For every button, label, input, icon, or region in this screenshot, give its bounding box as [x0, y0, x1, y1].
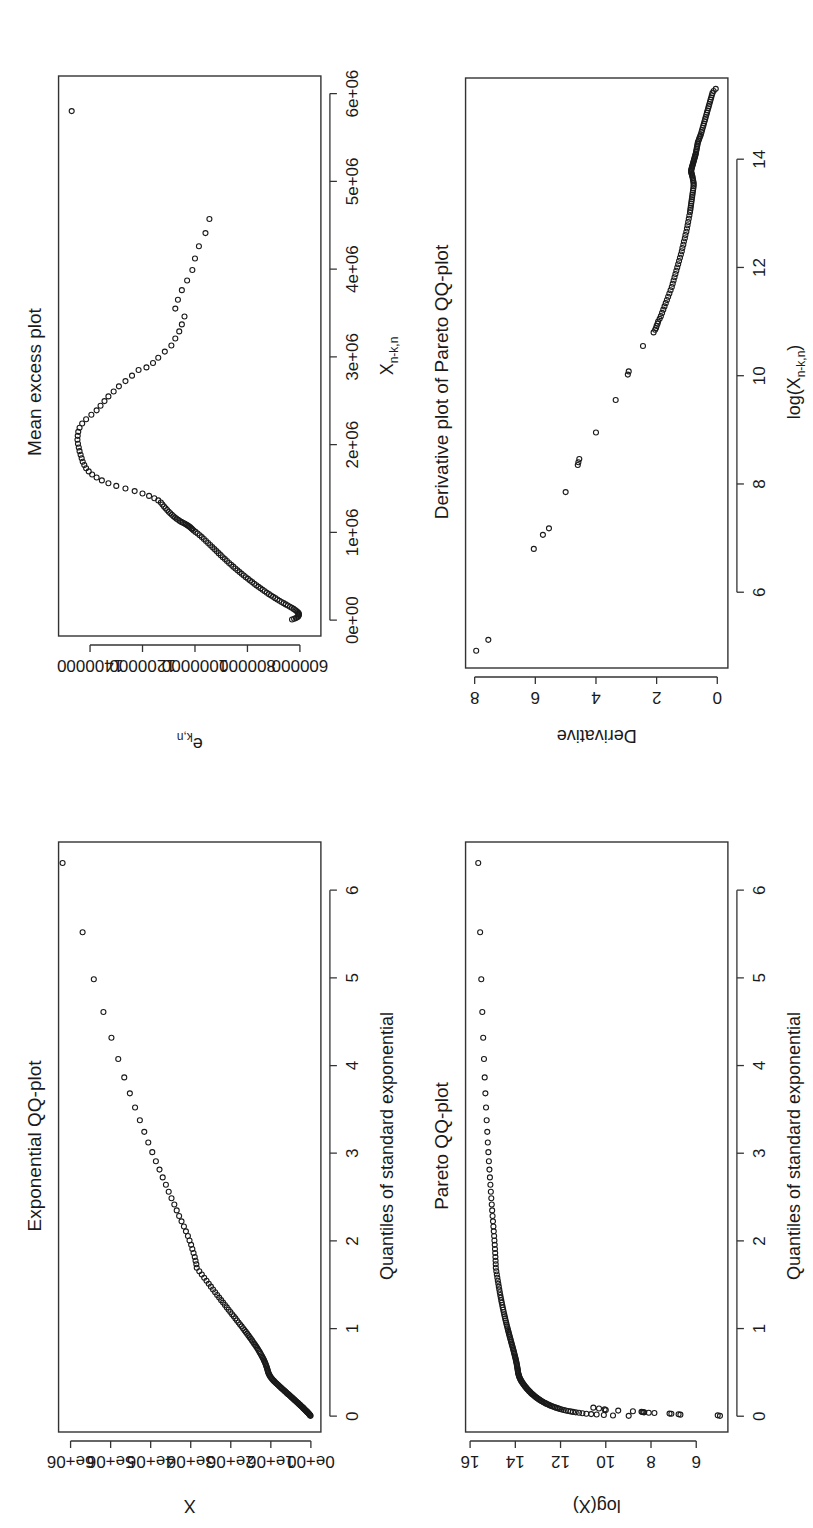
pareto-qq-ylabel: log(X)	[572, 1496, 620, 1516]
mean-excess-plot-area: 0e+001e+062e+063e+064e+065e+066e+0660000…	[56, 70, 361, 675]
x-tick-label: 1	[749, 1324, 768, 1333]
exponential-qq-points	[60, 861, 313, 1419]
rotated-figure-canvas: Exponential QQ-plot 01234560e+001e+062e+…	[0, 0, 813, 1528]
exponential-qq-title: Exponential QQ-plot	[23, 1060, 44, 1232]
pareto-qq-points	[475, 861, 722, 1419]
derivative-plot-points	[473, 86, 718, 653]
mean-excess-axes: 0e+001e+062e+063e+064e+065e+066e+0660000…	[56, 70, 361, 675]
x-tick-label: 2e+06	[342, 421, 361, 469]
x-tick-label: 6	[342, 885, 361, 894]
pareto-qq-frame	[465, 842, 727, 1432]
panel-exponential-qq: Exponential QQ-plot 01234560e+001e+062e+…	[0, 764, 407, 1528]
mean-excess-ylabel-base: e	[192, 734, 202, 754]
x-tick-label: 8	[749, 479, 768, 488]
mean-excess-title: Mean excess plot	[23, 307, 44, 455]
x-tick-label: 1	[342, 1324, 361, 1333]
x-tick-label: 10	[749, 366, 768, 385]
y-tick-label: 4	[590, 688, 599, 707]
derivative-plot-ylabel: Derivative	[556, 726, 636, 746]
x-tick-label: 5e+06	[342, 157, 361, 205]
x-tick-label: 4	[749, 1061, 768, 1070]
mean-excess-frame	[58, 76, 320, 636]
x-tick-label: 0e+00	[342, 596, 361, 644]
x-tick-label: 3e+06	[342, 333, 361, 381]
y-tick-label: 14	[505, 1452, 524, 1471]
x-tick-label: 14	[749, 150, 768, 169]
exponential-qq-axes: 01234560e+001e+062e+063e+064e+065e+066e+…	[46, 885, 361, 1471]
x-tick-label: 2	[749, 1236, 768, 1245]
mean-excess-points	[69, 109, 301, 622]
pareto-qq-axes: 01234566810121416	[460, 885, 768, 1471]
x-tick-label: 6	[749, 885, 768, 894]
y-tick-label: 8	[469, 688, 478, 707]
x-tick-label: 6e+06	[342, 70, 361, 118]
exponential-qq-xlabel: Quantiles of standard exponential	[376, 1012, 396, 1280]
x-tick-label: 2	[342, 1236, 361, 1245]
x-tick-label: 12	[749, 258, 768, 277]
y-tick-label: 1400000	[56, 656, 122, 675]
x-tick-label: 0	[749, 1411, 768, 1420]
x-tick-label: 6	[749, 587, 768, 596]
mean-excess-ylabel: ek,n	[176, 730, 202, 754]
x-tick-label: 1e+06	[342, 509, 361, 557]
x-tick-label: 0	[342, 1411, 361, 1420]
pareto-qq-xlabel: Quantiles of standard exponential	[783, 1012, 803, 1280]
x-tick-label: 3	[342, 1148, 361, 1157]
exponential-qq-svg: Exponential QQ-plot 01234560e+001e+062e+…	[0, 764, 407, 1528]
exponential-qq-ylabel: X	[183, 1496, 195, 1516]
x-tick-label: 4e+06	[342, 245, 361, 293]
exponential-qq-plot-area: 01234560e+001e+062e+063e+064e+065e+066e+…	[46, 842, 361, 1471]
y-tick-label: 6e+06	[46, 1452, 94, 1471]
y-tick-label: 6	[530, 688, 539, 707]
pareto-qq-title: Pareto QQ-plot	[430, 1081, 451, 1209]
panel-pareto-qq: Pareto QQ-plot 01234566810121416 Quantil…	[407, 764, 813, 1528]
x-tick-label: 5	[342, 973, 361, 982]
pareto-qq-plot-area: 01234566810121416	[460, 842, 768, 1471]
y-tick-label: 2	[651, 688, 660, 707]
derivative-xlabel-base: log(X	[783, 377, 803, 419]
derivative-plot-axes: 6810121402468	[469, 150, 768, 707]
y-tick-label: 0	[712, 688, 721, 707]
y-tick-label: 600000	[271, 656, 328, 675]
y-tick-label: 6	[690, 1452, 699, 1471]
mean-excess-svg: Mean excess plot 0e+001e+062e+063e+064e+…	[0, 0, 407, 764]
y-tick-label: 16	[460, 1452, 479, 1471]
pareto-qq-svg: Pareto QQ-plot 01234566810121416 Quantil…	[407, 764, 813, 1528]
x-tick-label: 5	[749, 973, 768, 982]
derivative-plot-xlabel: log(Xn-k,n)	[783, 345, 807, 420]
y-tick-label: 8	[645, 1452, 654, 1471]
derivative-plot-svg: Derivative plot of Pareto QQ-plot 681012…	[407, 0, 813, 764]
mean-excess-xlabel-sub: n-k,n	[386, 337, 400, 364]
y-tick-label: 12	[550, 1452, 569, 1471]
mean-excess-xlabel: Xn-k,n	[376, 337, 400, 376]
mean-excess-ylabel-sub: k,n	[176, 730, 192, 744]
derivative-xlabel-sub: n-k,n	[793, 351, 807, 378]
panel-mean-excess: Mean excess plot 0e+001e+062e+063e+064e+…	[0, 0, 407, 764]
derivative-plot-title: Derivative plot of Pareto QQ-plot	[430, 244, 451, 519]
panel-derivative-plot: Derivative plot of Pareto QQ-plot 681012…	[407, 0, 813, 764]
exponential-qq-frame	[58, 842, 320, 1432]
derivative-plot-frame	[465, 78, 727, 668]
figure-page: Exponential QQ-plot 01234560e+001e+062e+…	[0, 0, 813, 1528]
panel-grid: Exponential QQ-plot 01234560e+001e+062e+…	[0, 0, 813, 1528]
x-tick-label: 3	[749, 1148, 768, 1157]
derivative-xlabel-tail: )	[783, 345, 803, 351]
mean-excess-xlabel-base: X	[376, 363, 396, 375]
y-tick-label: 10	[595, 1452, 614, 1471]
x-tick-label: 4	[342, 1061, 361, 1070]
derivative-plot-area: 6810121402468	[465, 78, 768, 707]
